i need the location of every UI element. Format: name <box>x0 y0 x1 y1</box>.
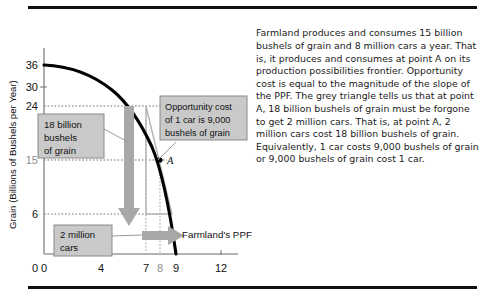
x-axis-title: Cars (Millions per Year) <box>136 281 236 282</box>
bottom-divider-rule <box>28 286 477 289</box>
grain-callout-line-3: of grain <box>44 145 76 156</box>
grain-callout-line-1: 18 billion <box>44 119 82 130</box>
y-axis-title: Grain (Billions of Bushels per Year) <box>7 80 18 229</box>
leader-line-cars <box>112 235 142 236</box>
xtick-8: 8 <box>157 262 163 274</box>
grain-callout-line-2: bushels <box>44 132 77 143</box>
ytick-30: 30 <box>26 81 38 93</box>
ytick-6: 6 <box>32 208 38 220</box>
cars-callout-line-1: 2 million <box>60 229 95 240</box>
ppf-series-label: Farmland's PPF <box>182 229 252 240</box>
ytick-24: 24 <box>26 100 38 112</box>
cars-callout-line-2: cars <box>60 242 78 253</box>
opportunity-callout-line-3: bushels of grain <box>165 128 230 138</box>
grain-drop-arrow <box>118 106 140 226</box>
xtick-9: 9 <box>173 262 179 274</box>
point-a-label: A <box>166 155 174 166</box>
opportunity-callout-box: Opportunity cost of 1 car is 9,000 bushe… <box>160 96 247 140</box>
xtick-7: 7 <box>143 262 149 274</box>
figure-container: A 36 30 24 15 6 0 <box>0 0 491 298</box>
cars-callout-box: 2 million cars <box>54 225 112 256</box>
xtick-4: 4 <box>98 262 104 274</box>
ytick-0: 0 <box>32 262 38 274</box>
xtick-12: 12 <box>215 262 227 274</box>
grain-callout-box: 18 billion bushels of grain <box>38 114 104 158</box>
ytick-36: 36 <box>26 59 38 71</box>
opportunity-callout-line-1: Opportunity cost <box>165 102 232 112</box>
opportunity-callout-line-2: of 1 car is 9,000 <box>165 115 230 125</box>
top-divider-rule <box>28 6 477 9</box>
xtick-0: 0 <box>41 262 47 274</box>
ppf-chart: A 36 30 24 15 6 0 <box>0 14 252 282</box>
ytick-15: 15 <box>26 154 38 166</box>
explanation-text: Farmland produces and consumes 15 billio… <box>256 27 480 166</box>
